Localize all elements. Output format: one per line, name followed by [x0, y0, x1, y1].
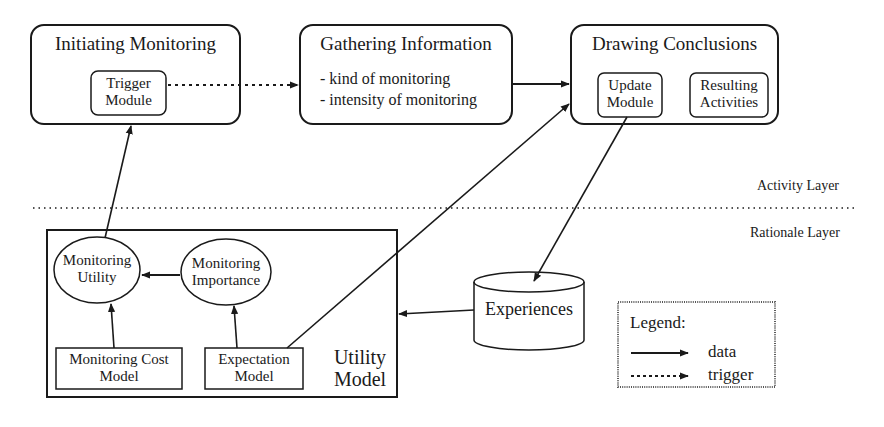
expectation-model-label: Expectation Model — [205, 351, 303, 384]
update-module-line2: Module — [598, 94, 662, 111]
legend-data-label: data — [708, 343, 736, 362]
resulting-activities-label: Resulting Activities — [690, 77, 768, 110]
expectation-model-line2: Model — [205, 368, 303, 385]
experiences-label: Experiences — [474, 300, 584, 320]
trigger-module-label: Trigger Module — [91, 75, 166, 108]
drawing-conclusions-title: Drawing Conclusions — [571, 34, 778, 55]
utility-model-line2: Model — [325, 368, 395, 390]
initiating-monitoring-title: Initiating Monitoring — [31, 34, 240, 55]
bullet-intensity: - intensity of monitoring — [320, 89, 477, 110]
monitoring-importance-label: Monitoring Importance — [181, 255, 271, 288]
trigger-module-line2: Module — [91, 92, 166, 109]
monitoring-cost-line1: Monitoring Cost — [56, 351, 182, 368]
edge-utility-to-trigger — [105, 126, 131, 238]
activity-layer-label: Activity Layer — [757, 178, 839, 193]
edge-expectation-to-importance — [234, 306, 237, 348]
monitoring-utility-line1: Monitoring — [54, 252, 140, 269]
legend-title: Legend: — [630, 314, 686, 333]
utility-model-line1: Utility — [325, 346, 395, 368]
gathering-information-title: Gathering Information — [300, 34, 512, 55]
gathering-bullets: - kind of monitoring - intensity of moni… — [320, 68, 477, 110]
monitoring-utility-line2: Utility — [54, 269, 140, 286]
update-module-label: Update Module — [598, 77, 662, 110]
edge-update-to-experiences — [534, 117, 627, 281]
monitoring-utility-label: Monitoring Utility — [54, 252, 140, 285]
edge-experiences-to-utility-model — [399, 310, 474, 314]
rationale-layer-label: Rationale Layer — [750, 225, 840, 240]
bullet-kind: - kind of monitoring — [320, 68, 477, 89]
resulting-activities-line1: Resulting — [690, 77, 768, 94]
legend-trigger-label: trigger — [708, 366, 753, 385]
monitoring-importance-line1: Monitoring — [181, 255, 271, 272]
resulting-activities-line2: Activities — [690, 94, 768, 111]
monitoring-cost-line2: Model — [56, 368, 182, 385]
utility-model-label: Utility Model — [325, 346, 395, 390]
expectation-model-line1: Expectation — [205, 351, 303, 368]
update-module-line1: Update — [598, 77, 662, 94]
monitoring-importance-line2: Importance — [181, 272, 271, 289]
monitoring-cost-model-label: Monitoring Cost Model — [56, 351, 182, 384]
edge-cost-to-utility — [111, 304, 114, 348]
trigger-module-line1: Trigger — [91, 75, 166, 92]
